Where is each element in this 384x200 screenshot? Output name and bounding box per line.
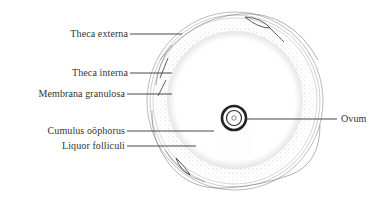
label-ovum: Ovum [341, 113, 366, 125]
label-theca-externa: Theca externa [70, 28, 128, 40]
follicle-diagram: Theca externa Theca interna Membrana gra… [0, 0, 384, 200]
label-theca-interna: Theca interna [72, 67, 128, 79]
label-cumulus-oophorus: Cumulus oöphorus [48, 125, 125, 137]
follicle-illustration [0, 0, 384, 200]
label-liquor-folliculi: Liquor folliculi [62, 140, 125, 152]
ovum [222, 106, 246, 130]
label-membrana-granulosa: Membrana granulosa [39, 88, 126, 100]
